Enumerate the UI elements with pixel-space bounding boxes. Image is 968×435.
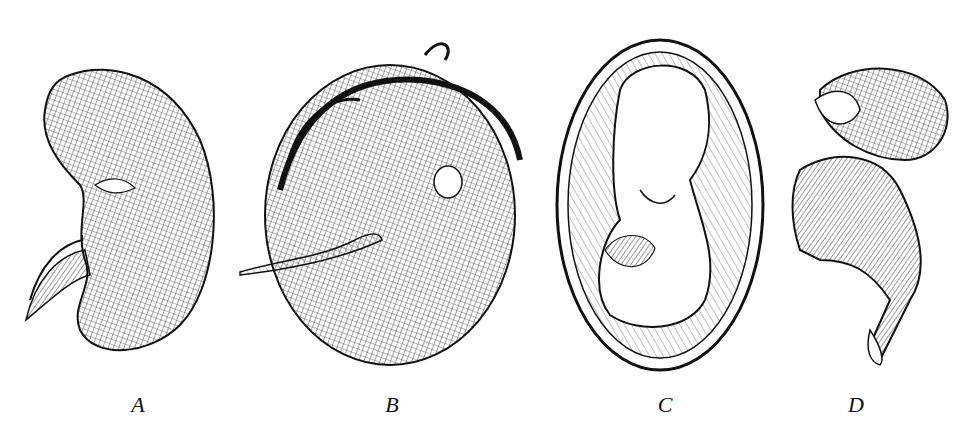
figure-c-drawing [557, 40, 763, 370]
panel-label-b: B [385, 392, 398, 418]
figure-a-drawing [26, 70, 214, 351]
illustration-canvas [0, 0, 968, 435]
figure-b-drawing [240, 44, 520, 365]
panel-label-d: D [848, 392, 864, 418]
panel-label-a: A [131, 392, 144, 418]
figure-d-drawing [793, 69, 948, 365]
panel-label-c: C [658, 392, 673, 418]
